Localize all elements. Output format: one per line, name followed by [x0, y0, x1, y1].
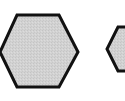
large-hexagon [0, 15, 78, 87]
hexagon-diagram [0, 0, 125, 101]
small-hexagon [107, 27, 125, 71]
